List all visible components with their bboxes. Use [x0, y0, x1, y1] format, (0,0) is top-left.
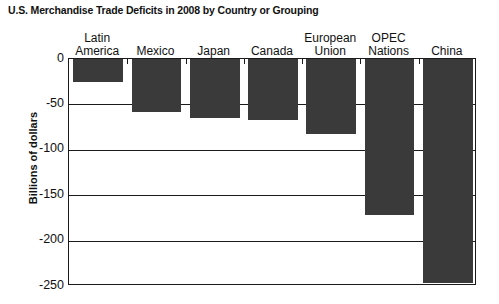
x-axis-tick [360, 58, 361, 64]
x-axis-tick [127, 58, 128, 64]
category-label: Latin America [68, 32, 126, 58]
x-axis-category-labels: Latin AmericaMexicoJapanCanadaEuropean U… [68, 26, 476, 58]
category-label: Mexico [126, 45, 184, 58]
plot-area [68, 58, 476, 285]
y-tick-label: -50 [24, 97, 64, 110]
category-label: Japan [185, 45, 243, 58]
category-label: European Union [301, 32, 359, 58]
x-axis-tick [302, 58, 303, 64]
bar [423, 59, 473, 283]
x-axis-tick [244, 58, 245, 64]
x-axis-tick [186, 58, 187, 64]
y-tick-label: -250 [24, 279, 64, 292]
y-tick-label: -150 [24, 188, 64, 201]
bar [365, 59, 415, 215]
category-label: Canada [243, 45, 301, 58]
category-label: China [418, 45, 476, 58]
bar [73, 59, 123, 82]
bars-group [69, 59, 475, 284]
bar [190, 59, 240, 118]
bar [306, 59, 356, 134]
y-tick-label: 0 [24, 52, 64, 65]
bar [248, 59, 298, 120]
y-axis-tick-labels: 0-50-100-150-200-250 [22, 0, 64, 304]
category-label: OPEC Nations [359, 32, 417, 58]
y-tick-label: -200 [24, 233, 64, 246]
y-tick-label: -100 [24, 142, 64, 155]
x-axis-tick [419, 58, 420, 64]
bar [132, 59, 182, 112]
